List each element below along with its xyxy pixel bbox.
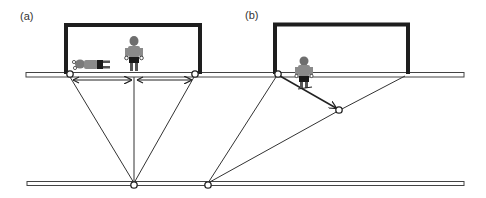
goalkeeper-standing-icon-a [125,36,144,71]
goal-frame-b [275,25,408,75]
rays-panel-a [70,77,194,183]
goal-line-band [26,73,464,78]
diagram-canvas [0,0,486,198]
arrows-panel-a [73,77,191,83]
goalkeeper-diving-icon-a [72,60,110,70]
goalkeeper-standing-icon-b [295,57,313,90]
marker-b-advanced [336,107,342,113]
marker-b-left-post [275,71,281,77]
marker-a-bottom [131,182,137,188]
marker-a-left-post [67,71,73,77]
bottom-line-band [27,182,464,186]
marker-b-bottom [205,182,211,188]
marker-a-right-post [192,71,198,77]
